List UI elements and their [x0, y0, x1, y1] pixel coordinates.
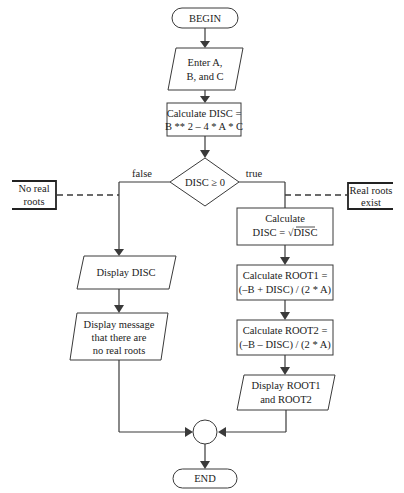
input-line-2: B, and C: [186, 71, 223, 82]
arrow-root1-to-root2: [280, 300, 290, 320]
true-label: true: [246, 168, 263, 179]
arrow-right-to-connector: [218, 410, 286, 437]
display-roots-parallelogram: Display ROOT1 and ROOT2: [237, 375, 335, 410]
end-label: END: [194, 473, 216, 484]
calc-root2-process: Calculate ROOT2 = (–B – DISC) / (2 * A): [237, 320, 333, 355]
display-message-line-3: no real roots: [93, 345, 146, 356]
calc-root2-line-2: (–B – DISC) / (2 * A): [239, 339, 331, 351]
arrow-begin-to-input: [200, 28, 210, 48]
calc-sqrt-process: Calculate DISC = √DISC: [237, 208, 333, 245]
begin-terminator: BEGIN: [172, 8, 238, 28]
decision-diamond: DISC ≥ 0: [170, 158, 239, 206]
arrow-sqrt-to-root1: [280, 245, 290, 265]
calc-disc-line-2: B ** 2 – 4 * A * C: [165, 121, 243, 132]
display-message-parallelogram: Display message that there are no real r…: [70, 313, 168, 360]
note-right-line-1: Real roots: [350, 185, 393, 196]
calc-root1-process: Calculate ROOT1 = (–B + DISC) / (2 * A): [237, 265, 333, 300]
false-label: false: [132, 168, 152, 179]
arrow-connector-to-end: [200, 444, 210, 469]
calc-sqrt-line-1: Calculate: [265, 213, 305, 224]
decision-label: DISC ≥ 0: [185, 177, 225, 188]
input-parallelogram: Enter A, B, and C: [168, 48, 243, 90]
calc-sqrt-line-2: DISC = √DISC: [253, 227, 318, 238]
display-message-line-1: Display message: [84, 319, 155, 330]
true-branch-connector: true: [239, 168, 285, 208]
arrow-left-to-connector: [119, 360, 193, 437]
begin-label: BEGIN: [189, 13, 221, 24]
arrow-display-disc-to-message: [114, 289, 124, 313]
calc-root2-line-1: Calculate ROOT2 =: [243, 325, 328, 336]
calc-disc-line-1: Calculate DISC =: [167, 108, 242, 119]
note-left-line-1: No real: [18, 183, 49, 194]
note-left-line-2: roots: [24, 196, 45, 207]
flowchart-canvas: BEGIN Enter A, B, and C Calculate DISC =…: [0, 0, 404, 493]
merge-connector-circle: [193, 420, 217, 444]
display-roots-line-2: and ROOT2: [260, 394, 312, 405]
display-message-line-2: that there are: [92, 332, 147, 343]
note-right-line-2: exist: [361, 197, 381, 208]
note-no-real-roots: No real roots: [12, 181, 119, 209]
end-terminator: END: [173, 469, 237, 488]
display-disc-parallelogram: Display DISC: [77, 256, 176, 289]
display-disc-label: Display DISC: [96, 267, 155, 278]
display-roots-line-1: Display ROOT1: [251, 380, 320, 391]
calc-disc-process: Calculate DISC = B ** 2 – 4 * A * C: [165, 103, 243, 136]
note-real-roots-exist: Real roots exist: [285, 183, 393, 209]
calc-root1-line-2: (–B + DISC) / (2 * A): [239, 284, 332, 296]
arrow-root2-to-display: [280, 355, 290, 375]
arrow-input-to-calc: [200, 90, 210, 103]
input-line-1: Enter A,: [188, 57, 223, 68]
calc-root1-line-1: Calculate ROOT1 =: [243, 270, 328, 281]
false-branch-connector: false: [114, 168, 170, 256]
arrow-calc-to-decision: [200, 136, 210, 158]
